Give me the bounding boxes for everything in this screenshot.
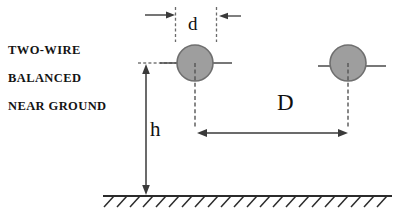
caption-line-near-ground: NEAR GROUND bbox=[8, 100, 136, 112]
D-dimension-group bbox=[197, 129, 348, 137]
h-dimension-group bbox=[142, 64, 150, 195]
dimension-label-D: D bbox=[277, 91, 294, 114]
caption-line-balanced: BALANCED bbox=[8, 72, 136, 84]
right-conductor-group bbox=[318, 45, 386, 128]
caption-line-two-wire: TWO-WIRE bbox=[8, 44, 136, 56]
ground-hatch-strokes bbox=[104, 196, 387, 207]
d-right-arrowhead-icon bbox=[219, 13, 228, 19]
dimension-label-h: h bbox=[150, 119, 161, 140]
ground-hatch-icon bbox=[103, 196, 392, 207]
dimension-label-d: d bbox=[188, 14, 198, 33]
h-top-arrowhead-icon bbox=[142, 64, 150, 74]
d-left-arrowhead-icon bbox=[166, 12, 175, 19]
figure-canvas: TWO-WIRE BALANCED NEAR GROUND d D h bbox=[0, 0, 397, 217]
D-right-arrowhead-icon bbox=[338, 129, 348, 137]
left-conductor-group bbox=[160, 45, 232, 128]
figure-caption-block: TWO-WIRE BALANCED NEAR GROUND bbox=[8, 44, 136, 128]
D-left-arrowhead-icon bbox=[197, 129, 207, 137]
h-bottom-arrowhead-icon bbox=[142, 185, 150, 195]
